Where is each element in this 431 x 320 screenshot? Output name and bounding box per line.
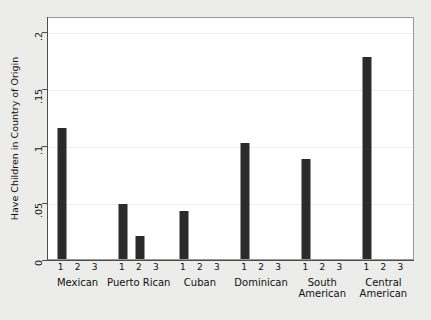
y-axis-title: Have Children in Country of Origin bbox=[8, 17, 22, 260]
x-sub-label: 1 bbox=[58, 263, 64, 272]
x-group-label: South American bbox=[298, 277, 346, 299]
y-tick-label: .1 bbox=[33, 146, 44, 155]
bar bbox=[302, 159, 311, 259]
y-tick-label: .2 bbox=[33, 32, 44, 41]
x-sub-label: 3 bbox=[275, 263, 281, 272]
y-tick-label: 0 bbox=[33, 260, 44, 266]
gridline-.05 bbox=[48, 204, 413, 205]
gridline-.1 bbox=[48, 147, 413, 148]
x-sub-label: 1 bbox=[302, 263, 308, 272]
bar bbox=[179, 211, 188, 259]
y-axis-spine bbox=[47, 17, 48, 260]
bar bbox=[118, 204, 127, 259]
x-sub-label: 1 bbox=[119, 263, 125, 272]
gridline-.2 bbox=[48, 33, 413, 34]
x-sub-label: 3 bbox=[214, 263, 220, 272]
bar bbox=[241, 143, 250, 259]
x-sub-label: 1 bbox=[364, 263, 370, 272]
x-group-label: Puerto Rican bbox=[107, 277, 170, 288]
x-sub-label: 2 bbox=[197, 263, 203, 272]
x-sub-label: 3 bbox=[336, 263, 342, 272]
bar bbox=[57, 128, 66, 259]
bar bbox=[135, 236, 144, 259]
x-sub-label: 3 bbox=[398, 263, 404, 272]
x-sub-label: 3 bbox=[153, 263, 159, 272]
y-tick-label: .15 bbox=[33, 89, 44, 104]
y-tick-label: .05 bbox=[33, 203, 44, 218]
x-sub-label: 2 bbox=[319, 263, 325, 272]
y-axis-title-text: Have Children in Country of Origin bbox=[10, 57, 21, 220]
x-sub-label: 2 bbox=[136, 263, 142, 272]
x-group-label: Mexican bbox=[57, 277, 98, 288]
x-sub-label: 2 bbox=[381, 263, 387, 272]
bar bbox=[363, 57, 372, 259]
x-sub-label: 1 bbox=[241, 263, 247, 272]
x-group-label: Central American bbox=[360, 277, 408, 299]
x-axis-spine bbox=[47, 260, 414, 261]
chart-figure: 0.05.1.15.2 Have Children in Country of … bbox=[0, 0, 431, 320]
gridline-.15 bbox=[48, 90, 413, 91]
x-group-label: Dominican bbox=[234, 277, 287, 288]
x-group-label: Cuban bbox=[184, 277, 216, 288]
x-sub-label: 2 bbox=[258, 263, 264, 272]
plot-area bbox=[47, 17, 414, 260]
x-sub-label: 3 bbox=[92, 263, 98, 272]
x-sub-label: 1 bbox=[180, 263, 186, 272]
x-sub-label: 2 bbox=[75, 263, 81, 272]
